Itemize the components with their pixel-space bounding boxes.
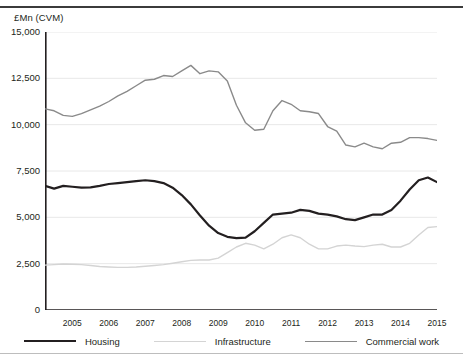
y-tick-label: 10,000 [0,119,40,130]
series-line-housing [45,177,437,238]
y-tick-label: 12,500 [0,72,40,83]
y-tick-label: 5,000 [0,211,40,222]
y-tick-label: 7,500 [0,165,40,176]
line-swatch-commercial-icon [305,341,357,342]
plot-area [45,32,437,310]
line-swatch-housing-icon [24,340,76,342]
y-tick-label: 0 [0,304,40,315]
y-axis-title: £Mn (CVM) [14,12,63,23]
line-swatch-infrastructure-icon [154,341,206,342]
x-tick-label: 2015 [415,318,459,328]
y-tick-label: 15,000 [0,26,40,37]
line-chart [45,32,437,310]
legend-label-infrastructure: Infrastructure [215,336,271,347]
series-line-infrastructure [45,227,437,268]
legend-item-housing[interactable]: Housing [24,336,120,347]
legend-label-commercial-work: Commercial work [366,336,439,347]
y-tick-label: 2,500 [0,258,40,269]
legend-label-housing: Housing [85,336,120,347]
legend-item-commercial-work[interactable]: Commercial work [305,336,439,347]
chart-legend: Housing Infrastructure Commercial work [0,332,463,350]
chart-page: £Mn (CVM) 15,00012,50010,0007,5005,0002,… [0,0,463,361]
legend-item-infrastructure[interactable]: Infrastructure [154,336,271,347]
top-divider [0,6,463,8]
bottom-divider [0,353,463,354]
